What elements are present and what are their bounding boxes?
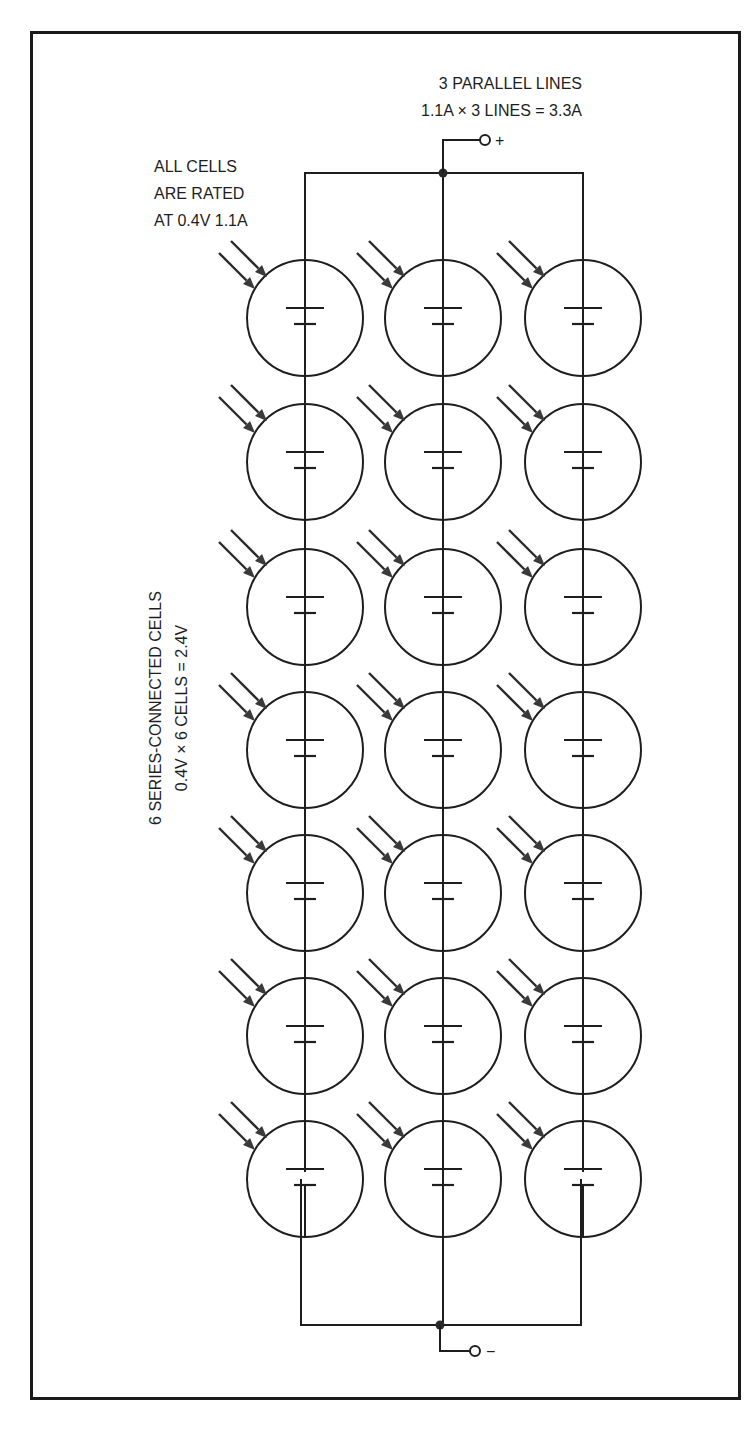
series-voltage-formula: 0.4V × 6 CELLS = 2.4V <box>173 625 190 792</box>
solar-cell <box>497 1102 641 1237</box>
solar-array-diagram: 3 PARALLEL LINES 1.1A × 3 LINES = 3.3A A… <box>0 0 751 1430</box>
solar-cell <box>357 385 501 520</box>
solar-cell <box>497 530 641 665</box>
positive-terminal-label: + <box>495 132 504 149</box>
solar-cell <box>219 959 363 1094</box>
solar-cell <box>357 816 501 951</box>
solar-cell <box>357 959 501 1094</box>
solar-cell <box>219 385 363 520</box>
solar-cell <box>357 1102 501 1237</box>
solar-cell <box>497 673 641 808</box>
solar-cell <box>357 241 501 376</box>
negative-terminal-label: − <box>486 1343 495 1360</box>
rating-note-line-1: ALL CELLS <box>154 158 237 175</box>
solar-cell <box>357 673 501 808</box>
solar-cell <box>219 530 363 665</box>
cell-grid <box>219 241 641 1237</box>
solar-cell <box>219 816 363 951</box>
solar-cell <box>357 530 501 665</box>
parallel-lines-title: 3 PARALLEL LINES <box>439 75 582 92</box>
solar-cell <box>219 673 363 808</box>
series-cells-label: 6 SERIES-CONNECTED CELLS <box>147 591 164 825</box>
parallel-current-formula: 1.1A × 3 LINES = 3.3A <box>421 102 582 119</box>
solar-cell <box>497 241 641 376</box>
solar-cell <box>219 1102 363 1237</box>
negative-terminal-icon[interactable] <box>470 1346 480 1356</box>
solar-cell <box>497 959 641 1094</box>
rating-note-line-3: AT 0.4V 1.1A <box>154 212 248 229</box>
solar-cell <box>497 385 641 520</box>
rating-note-line-2: ARE RATED <box>154 185 244 202</box>
solar-cell <box>219 241 363 376</box>
negative-bus: − <box>301 1179 581 1360</box>
positive-terminal-icon[interactable] <box>480 135 490 145</box>
solar-cell <box>497 816 641 951</box>
